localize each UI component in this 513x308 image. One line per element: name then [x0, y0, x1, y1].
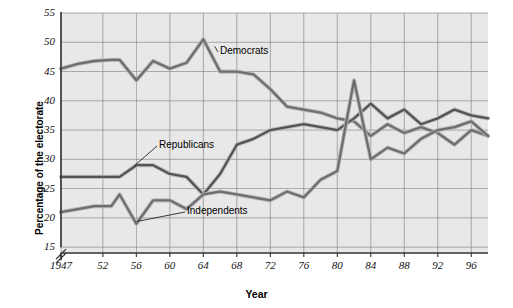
x-axis-title: Year	[0, 288, 513, 300]
chart-figure: Percentage of the electorate 15202530354…	[0, 0, 513, 308]
series-label-independents: Independents	[187, 205, 248, 216]
series-label-republicans: Republicans	[159, 139, 214, 150]
series-label-democrats: Democrats	[220, 45, 268, 56]
